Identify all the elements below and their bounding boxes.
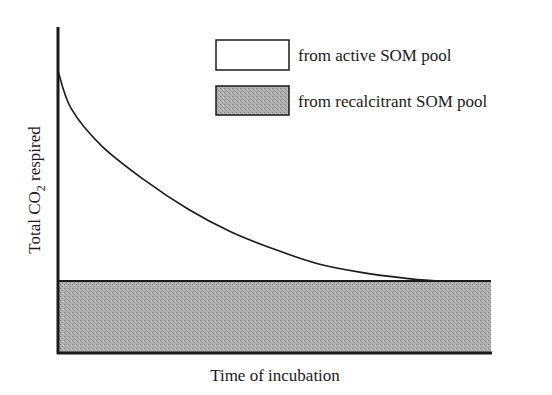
legend-swatch-active	[216, 40, 289, 70]
legend: from active SOM pool from recalcitrant S…	[216, 40, 488, 115]
legend-label-recalcitrant: from recalcitrant SOM pool	[298, 92, 488, 111]
recalcitrant-pool-area	[58, 281, 491, 353]
legend-label-active: from active SOM pool	[298, 46, 452, 65]
chart: from active SOM pool from recalcitrant S…	[0, 0, 552, 395]
y-axis-label-rest: respired	[25, 126, 44, 186]
y-axis-label-main: Total CO	[25, 191, 44, 254]
x-axis-label: Time of incubation	[210, 366, 340, 385]
legend-swatch-recalcitrant	[216, 86, 289, 115]
y-axis-label: Total CO2 respired	[25, 126, 48, 254]
